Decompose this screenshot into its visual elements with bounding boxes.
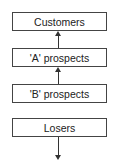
node-b-prospects: 'B' prospects [12,84,107,103]
node-losers: Losers [12,118,107,137]
node-label: 'A' prospects [30,52,89,64]
arrow-up-icon [55,31,61,36]
node-label: Customers [34,16,85,28]
node-label: Losers [44,122,76,134]
arrow-up-icon [55,67,61,72]
node-customers: Customers [12,12,107,31]
node-a-prospects: 'A' prospects [12,48,107,67]
arrow-down-icon [55,155,61,160]
arrow-line [58,137,59,155]
node-label: 'B' prospects [30,88,89,100]
